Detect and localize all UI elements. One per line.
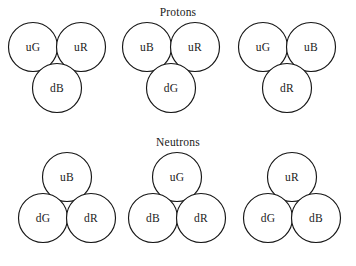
neutron-triplet-1: uB dG dR	[16, 150, 122, 246]
proton-triplet-1: uG uR dB	[6, 20, 112, 116]
quark-label-top-right: uR	[188, 41, 202, 53]
quark-label-bottom-center: dB	[50, 82, 64, 94]
quark-label-top-center: uG	[170, 171, 184, 183]
quark-label-bottom-right: dB	[309, 212, 323, 224]
quark-label-bottom-center: dR	[280, 82, 294, 94]
quark-label-bottom-left: dG	[36, 212, 50, 224]
quark-label-bottom-right: dR	[194, 212, 208, 224]
quark-label-bottom-right: dR	[84, 212, 98, 224]
neutron-triplet-2: uG dB dR	[126, 150, 232, 246]
proton-triplet-3: uG uB dR	[236, 20, 342, 116]
quark-label-top-left: uB	[140, 41, 154, 53]
quark-label-bottom-center: dG	[164, 82, 178, 94]
quark-label-top-left: uG	[256, 41, 270, 53]
quark-label-top-center: uB	[60, 171, 74, 183]
quark-label-top-right: uB	[304, 41, 318, 53]
quark-label-top-left: uG	[26, 41, 40, 53]
protons-section-title: Protons	[0, 6, 356, 18]
neutron-triplet-3: uR dG dB	[241, 150, 347, 246]
quark-label-bottom-left: dG	[261, 212, 275, 224]
proton-triplet-2: uB uR dG	[120, 20, 226, 116]
neutrons-section-title: Neutrons	[0, 136, 356, 148]
quark-label-top-center: uR	[285, 171, 299, 183]
quark-label-top-right: uR	[74, 41, 88, 53]
quark-composition-figure: Protons uG uR dB uB uR dG uG uB	[0, 0, 356, 266]
quark-label-bottom-left: dB	[146, 212, 160, 224]
